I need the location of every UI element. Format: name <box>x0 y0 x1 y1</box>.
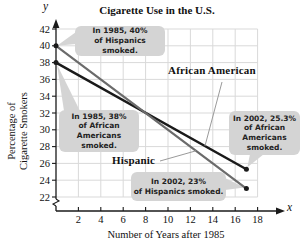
x-axis-title: Number of Years after 1985 <box>66 229 266 240</box>
callout-text-line: Americans smoked. <box>61 131 137 151</box>
callout-pointer-beak <box>57 65 80 111</box>
x-tick-label: 16 <box>230 214 241 225</box>
callout-text-line: In 1985, 40% <box>77 26 163 36</box>
callout-hispanic-2002: In 2002, 23% of Hispanics smoked. <box>131 172 226 201</box>
y-axis-title-line: Cigarette Smokers <box>18 71 30 191</box>
x-axis-variable-label: x <box>287 201 292 213</box>
y-tick-label: 36 <box>40 74 51 85</box>
label-pointer-line <box>205 82 222 146</box>
y-tick-label: 28 <box>40 141 51 152</box>
y-axis-break <box>53 199 59 206</box>
callout-text-line: of African <box>231 123 298 133</box>
y-tick-label: 34 <box>40 91 51 102</box>
x-tick-label: 8 <box>143 214 148 225</box>
callout-african-american-1985: In 1985, 38% of African Americans smoked… <box>59 110 139 152</box>
callout-hispanic-1985: In 1985, 40% of Hispanics smoked. <box>75 26 165 56</box>
data-point <box>54 60 59 65</box>
y-axis-arrow <box>53 19 60 28</box>
y-tick-label: 26 <box>40 158 51 169</box>
x-tick-label: 10 <box>163 214 174 225</box>
x-tick-label: 14 <box>208 214 219 225</box>
chart-title: Cigarette Use in the U.S. <box>57 4 257 16</box>
callout-text-line: In 2002, 25.3% <box>231 114 298 124</box>
x-axis: 24681012141618 <box>56 207 285 225</box>
data-point <box>54 43 59 48</box>
series-label-hispanic: Hispanic <box>112 154 172 166</box>
data-point <box>244 186 249 191</box>
x-tick-label: 4 <box>98 214 104 225</box>
y-tick-label: 30 <box>40 124 51 135</box>
x-tick-label: 12 <box>185 214 196 225</box>
callout-text-line: Americans smoked. <box>231 133 298 153</box>
y-tick-label: 32 <box>40 108 51 119</box>
callout-text-line: In 1985, 38% <box>61 112 137 122</box>
callout-text-line: of African <box>61 121 137 131</box>
series-label-african-american: African American <box>168 64 293 76</box>
data-point <box>244 167 249 172</box>
y-tick-label: 38 <box>40 57 51 68</box>
x-tick-label: 2 <box>76 214 81 225</box>
y-axis-title: Percentage of Cigarette Smokers <box>6 71 30 191</box>
callout-pointer-beak <box>247 154 264 167</box>
callout-text-line: of Hispanics smoked. <box>77 36 163 56</box>
y-axis-variable-label: y <box>43 0 48 12</box>
callout-text-line: In 2002, 23% <box>133 177 224 187</box>
x-tick-label: 18 <box>252 214 263 225</box>
x-axis-arrow <box>276 208 285 215</box>
callout-african-american-2002: In 2002, 25.3% of African Americans smok… <box>229 111 300 155</box>
callout-pointer-beak <box>57 32 76 46</box>
y-tick-label: 40 <box>40 40 51 51</box>
callout-text-line: of Hispanics smoked. <box>133 187 224 197</box>
x-tick-label: 6 <box>121 214 126 225</box>
y-tick-label: 24 <box>40 175 51 186</box>
y-axis-title-line: Percentage of <box>6 71 18 191</box>
y-tick-label: 42 <box>40 24 51 35</box>
y-tick-label: 22 <box>40 192 51 203</box>
chart-figure: 2224262830323436384042 24681012141618 Ci… <box>0 0 301 249</box>
